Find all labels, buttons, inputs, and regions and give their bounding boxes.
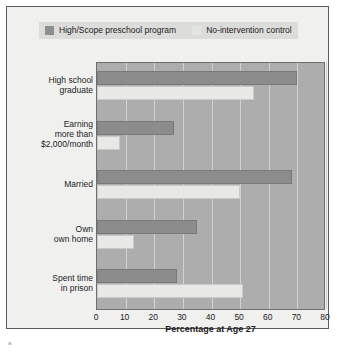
- bar: [97, 220, 197, 234]
- x-axis-tick-label: 20: [149, 312, 158, 322]
- x-axis-tick-label: 30: [177, 312, 186, 322]
- y-axis-label-line: Married: [15, 179, 93, 189]
- plot-area: [96, 62, 325, 310]
- chart-legend: High/Scope preschool program No-interven…: [39, 22, 298, 39]
- y-axis-label-line: Spent time: [15, 273, 93, 283]
- y-axis-label-line: graduate: [15, 85, 93, 95]
- y-axis-label-line: Earning: [15, 119, 93, 129]
- bar: [97, 86, 254, 100]
- y-axis-label-line: more than: [15, 129, 93, 139]
- bar: [97, 284, 243, 298]
- bar: [97, 136, 120, 150]
- bar: [97, 269, 177, 283]
- y-axis-label: Married: [15, 179, 93, 189]
- x-axis-tick-label: 60: [263, 312, 272, 322]
- legend-item-control: No-intervention control: [192, 26, 292, 35]
- y-axis-label-line: own home: [15, 234, 93, 244]
- bar-group: [97, 261, 324, 311]
- y-axis-label: High schoolgraduate: [15, 75, 93, 95]
- bar: [97, 170, 292, 184]
- bar: [97, 121, 174, 135]
- legend-label-control: No-intervention control: [206, 26, 292, 35]
- chart-panel: High/Scope preschool program No-interven…: [6, 6, 329, 329]
- y-axis-label-line: Own: [15, 224, 93, 234]
- y-axis-labels: High schoolgraduateEarningmore than$2,00…: [15, 62, 93, 310]
- x-axis-ticks: 01020304050607080: [96, 312, 325, 324]
- legend-swatch-program: [45, 26, 54, 35]
- bar-group: [97, 162, 324, 212]
- x-axis-tick-label: 40: [206, 312, 215, 322]
- legend-label-program: High/Scope preschool program: [59, 26, 176, 35]
- y-axis-label-line: $2,000/month: [15, 139, 93, 149]
- bar: [97, 71, 297, 85]
- x-axis-tick-label: 70: [292, 312, 301, 322]
- y-axis-label: Spent timein prison: [15, 273, 93, 293]
- y-axis-label: Earningmore than$2,000/month: [15, 119, 93, 149]
- y-axis-label-line: High school: [15, 75, 93, 85]
- bar: [97, 235, 134, 249]
- bar-group: [97, 63, 324, 113]
- y-axis-label: Ownown home: [15, 224, 93, 244]
- legend-swatch-control: [192, 26, 201, 35]
- footer-mark: a: [8, 340, 11, 346]
- x-axis-title: Percentage at Age 27: [96, 324, 325, 334]
- legend-item-program: High/Scope preschool program: [45, 26, 176, 35]
- x-axis-tick-label: 10: [120, 312, 129, 322]
- x-axis-tick-label: 0: [94, 312, 99, 322]
- bar: [97, 185, 240, 199]
- bar-group: [97, 113, 324, 163]
- x-axis-tick-label: 80: [320, 312, 329, 322]
- figure-container: High/Scope preschool program No-interven…: [0, 0, 337, 353]
- gridline-80: [326, 63, 327, 309]
- y-axis-label-line: in prison: [15, 283, 93, 293]
- x-axis-tick-label: 50: [234, 312, 243, 322]
- bar-groups: [97, 63, 324, 309]
- bar-group: [97, 212, 324, 262]
